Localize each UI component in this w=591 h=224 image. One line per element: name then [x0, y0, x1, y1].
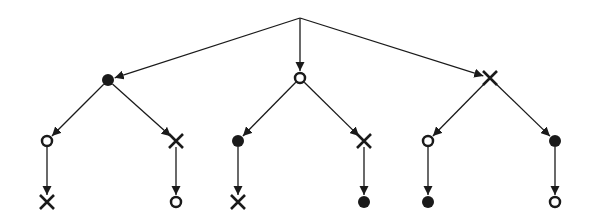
filled-circle-icon [422, 196, 434, 208]
open-circle-icon [550, 197, 560, 207]
cross-icon [357, 134, 371, 148]
cross-icon [169, 134, 183, 148]
edge-root-c [300, 18, 483, 76]
edge-a-a1 [52, 84, 104, 136]
filled-circle-icon [102, 74, 114, 86]
edge-a-a2 [112, 84, 170, 136]
cross-icon [231, 195, 245, 209]
edge-root-a [115, 18, 300, 78]
tree-edges [47, 18, 555, 195]
open-circle-icon [295, 73, 305, 83]
edge-b-b1 [243, 82, 296, 136]
edge-c-c2 [494, 82, 550, 136]
open-circle-icon [42, 136, 52, 146]
edge-b-b2 [304, 82, 359, 136]
tree-diagram [0, 0, 591, 224]
tree-nodes [40, 71, 561, 209]
open-circle-icon [171, 197, 181, 207]
filled-circle-icon [549, 135, 561, 147]
filled-circle-icon [358, 196, 370, 208]
open-circle-icon [423, 136, 433, 146]
edge-c-c1 [433, 82, 486, 136]
cross-icon [483, 71, 497, 85]
cross-icon [40, 195, 54, 209]
filled-circle-icon [232, 135, 244, 147]
